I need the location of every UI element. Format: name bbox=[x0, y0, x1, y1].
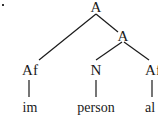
node-root-a: A bbox=[91, 0, 102, 15]
node-n: N bbox=[91, 63, 102, 78]
leaf-al: al bbox=[145, 100, 155, 115]
node-af-right: Af bbox=[145, 63, 158, 78]
edge-root-to-af bbox=[39, 14, 96, 60]
leaf-im: im bbox=[23, 100, 38, 115]
node-af-left: Af bbox=[22, 63, 38, 78]
edge-root-to-inner-a bbox=[96, 14, 118, 32]
edge-inner-a-to-af bbox=[124, 42, 149, 60]
morphology-tree-diagram: A A Af N Af im person al bbox=[0, 0, 158, 120]
leaf-person: person bbox=[77, 100, 114, 115]
node-inner-a: A bbox=[118, 29, 129, 44]
edge-inner-a-to-n bbox=[96, 42, 122, 60]
